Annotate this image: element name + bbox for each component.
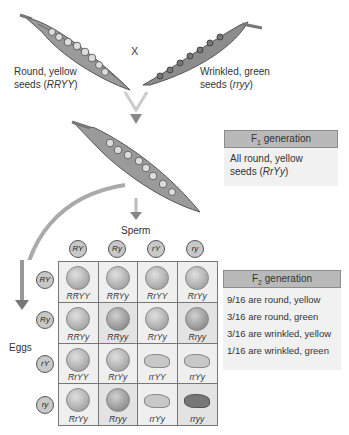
wrinkled-yellow-pea-icon bbox=[144, 354, 170, 368]
parent-right-label: Wrinkled, green seeds (rryy) bbox=[200, 65, 270, 91]
round-yellow-pea-icon bbox=[145, 307, 169, 331]
f1-generation-box: F1 generation All round, yellow seeds (R… bbox=[224, 130, 338, 186]
sperm-gamete: ry bbox=[186, 240, 204, 258]
sperm-label: Sperm bbox=[121, 224, 150, 237]
f2-title: F2 generation bbox=[223, 270, 341, 288]
punnett-cell: rryy bbox=[178, 384, 218, 425]
wrinkled-green-pea-icon bbox=[184, 394, 210, 408]
f1-title: F1 generation bbox=[224, 130, 338, 148]
round-yellow-pea-icon bbox=[145, 266, 169, 290]
round-yellow-pea-icon bbox=[185, 266, 209, 290]
round-yellow-pea-icon bbox=[106, 348, 130, 372]
punnett-cell: RRYY bbox=[59, 262, 99, 303]
sperm-gamete: Ry bbox=[108, 240, 126, 258]
round-yellow-pea-icon bbox=[66, 266, 90, 290]
punnett-cell: RrYy bbox=[59, 384, 99, 425]
punnett-cell: RRYy bbox=[99, 262, 139, 303]
punnett-cell: rrYy bbox=[178, 344, 218, 385]
punnett-cell: RrYy bbox=[178, 262, 218, 303]
punnett-square: RRYY RRYy RrYY RrYy RRYy RRyy RrYy Rryy … bbox=[58, 261, 218, 426]
punnett-cell: Rryy bbox=[178, 303, 218, 344]
f2-generation-box: F2 generation 9/16 are round, yellow 3/1… bbox=[223, 270, 341, 370]
arrow-to-f1-icon bbox=[125, 92, 147, 110]
punnett-cell: rrYY bbox=[138, 344, 178, 385]
arrow-head-icon bbox=[130, 114, 142, 124]
genotype: rryy bbox=[233, 79, 250, 90]
f1-description: All round, yellow seeds (RrYy) bbox=[224, 148, 338, 182]
punnett-cell: RRyy bbox=[99, 303, 139, 344]
punnett-cell: RrYY bbox=[59, 344, 99, 385]
wrinkled-yellow-pea-icon bbox=[144, 394, 170, 408]
cross-symbol: X bbox=[131, 45, 138, 57]
punnett-cell: RRYy bbox=[59, 303, 99, 344]
egg-gamete: ry bbox=[36, 396, 54, 414]
f2-ratio: 3/16 are wrinkled, yellow bbox=[223, 327, 341, 340]
eggs-label: Eggs bbox=[9, 341, 32, 354]
sperm-gamete: rY bbox=[147, 240, 165, 258]
egg-gamete: Ry bbox=[36, 311, 54, 329]
punnett-cell: Rryy bbox=[99, 384, 139, 425]
round-green-pea-icon bbox=[106, 307, 130, 331]
punnett-cell: RrYy bbox=[99, 344, 139, 385]
f2-ratio: 1/16 are wrinkled, green bbox=[223, 344, 341, 357]
round-yellow-pea-icon bbox=[66, 307, 90, 331]
round-yellow-pea-icon bbox=[66, 388, 90, 412]
egg-gamete: rY bbox=[36, 355, 54, 373]
f2-ratio: 9/16 are round, yellow bbox=[223, 293, 341, 306]
punnett-cell: rrYy bbox=[138, 384, 178, 425]
parent-left-label: Round, yellow seeds (RRYY) bbox=[14, 65, 78, 91]
wrinkled-yellow-pea-icon bbox=[184, 354, 210, 368]
f2-ratio: 3/16 are round, green bbox=[223, 310, 341, 323]
round-green-pea-icon bbox=[185, 307, 209, 331]
round-green-pea-icon bbox=[106, 388, 130, 412]
egg-gamete: RY bbox=[36, 271, 54, 289]
round-yellow-pea-icon bbox=[106, 266, 130, 290]
punnett-cell: RrYy bbox=[138, 303, 178, 344]
punnett-cell: RrYY bbox=[138, 262, 178, 303]
sperm-gamete: RY bbox=[69, 240, 87, 258]
genotype: RRYY bbox=[47, 79, 74, 90]
round-yellow-pea-icon bbox=[66, 348, 90, 372]
